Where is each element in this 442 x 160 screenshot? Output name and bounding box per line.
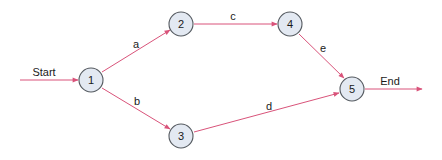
node-4-label: 4	[287, 18, 293, 30]
node-2-label: 2	[178, 18, 184, 30]
network-diagram: Start a b c d e End 1 2 3 4 5	[0, 0, 442, 160]
node-1-label: 1	[88, 74, 94, 86]
edge-label-b: b	[134, 95, 140, 107]
edge-a	[102, 30, 170, 72]
edge-label-end: End	[380, 75, 400, 87]
node-1: 1	[79, 68, 103, 92]
edge-label-c: c	[230, 10, 236, 22]
edge-label-e: e	[320, 42, 326, 54]
node-5-label: 5	[349, 83, 355, 95]
edge-label-d: d	[266, 100, 272, 112]
node-4: 4	[278, 12, 302, 36]
node-3-label: 3	[178, 130, 184, 142]
node-3: 3	[169, 124, 193, 148]
edge-label-start: Start	[32, 66, 55, 78]
edge-d	[194, 93, 339, 132]
node-5: 5	[340, 77, 364, 101]
edge-label-a: a	[133, 38, 140, 50]
node-2: 2	[169, 12, 193, 36]
edge-e	[299, 34, 344, 78]
